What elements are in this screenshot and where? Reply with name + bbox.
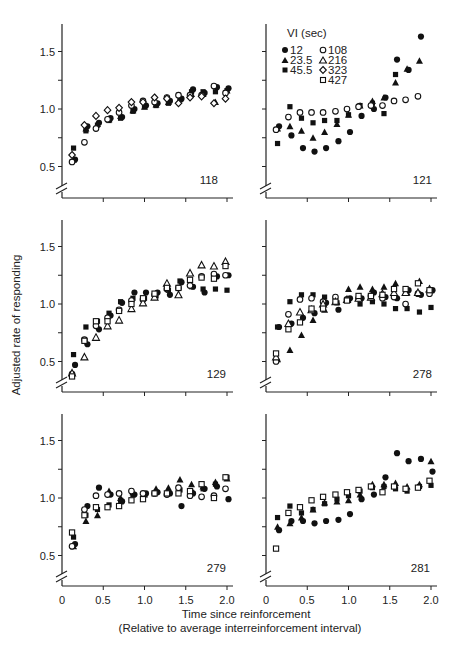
open-diamond-marker (93, 112, 100, 119)
filled-square-marker (310, 507, 315, 512)
filled-square-marker (381, 301, 386, 306)
filled-square-marker (322, 118, 327, 123)
open-square-marker (164, 285, 169, 290)
open-circle-marker (368, 103, 374, 109)
open-square-marker (116, 308, 121, 313)
filled-circle-marker (335, 517, 341, 523)
open-square-marker (344, 298, 349, 303)
filled-triangle-marker (286, 347, 293, 354)
open-circle-marker (211, 83, 217, 89)
filled-circle-marker (382, 474, 388, 480)
filled-triangle-icon (282, 57, 289, 63)
filled-square-marker (71, 352, 76, 357)
open-circle-marker (105, 117, 111, 123)
filled-triangle-marker (298, 127, 305, 134)
filled-circle-icon (282, 47, 288, 53)
open-circle-marker (309, 295, 315, 301)
filled-triangle-marker (310, 317, 317, 324)
x-axis-title: Time since reinforcement (182, 608, 311, 620)
open-circle-marker (380, 103, 386, 109)
filled-triangle-marker (416, 57, 423, 64)
open-circle-marker (93, 126, 99, 132)
open-square-marker (427, 288, 432, 293)
filled-square-marker (275, 515, 280, 520)
x-tick-label: 1.0 (137, 594, 152, 606)
filled-triangle-marker (428, 458, 435, 465)
filled-circle-marker (311, 148, 317, 154)
open-square-marker (129, 301, 134, 306)
filled-circle-marker (358, 113, 364, 119)
filled-triangle-marker (357, 283, 364, 290)
filled-triangle-marker (298, 332, 305, 339)
open-triangle-marker (187, 269, 194, 276)
filled-square-marker (393, 72, 398, 77)
open-square-marker (333, 299, 338, 304)
filled-square-marker (118, 116, 123, 121)
open-square-marker (391, 484, 396, 489)
open-square-marker (415, 485, 420, 490)
panel-id-281: 281 (411, 562, 430, 574)
x-tick-label: 2.0 (219, 594, 234, 606)
open-square-marker (93, 505, 98, 510)
open-square-marker (116, 503, 121, 508)
y-tick-label: 1.5 (40, 241, 55, 253)
y-tick-label: 0.5 (40, 550, 55, 562)
open-circle-marker (297, 297, 303, 303)
filled-triangle-marker (274, 523, 281, 530)
x-tick-label: 0 (263, 594, 269, 606)
legend-item-45-5: 45.5 (283, 64, 313, 76)
filled-triangle-marker (321, 129, 328, 136)
x-tick-labels-left: 0 0.5 1.0 1.5 2.0 (59, 594, 235, 606)
panel-279: 0.51.01.5 (40, 414, 233, 590)
filled-circle-marker (323, 518, 329, 524)
filled-triangle-marker (310, 134, 317, 141)
open-circle-marker (333, 109, 339, 115)
open-circle-marker (286, 114, 292, 120)
panel-id-279: 279 (207, 562, 226, 574)
open-circle-marker (223, 272, 229, 278)
open-circle-marker (391, 98, 397, 104)
open-circle-marker (199, 494, 205, 500)
filled-circle-marker (311, 520, 317, 526)
open-circle-marker (176, 485, 182, 491)
open-square-marker (211, 495, 216, 500)
panel-id-278: 278 (413, 368, 432, 380)
filled-circle-marker (96, 485, 102, 491)
open-circle-marker (116, 491, 122, 497)
open-square-marker (129, 498, 134, 503)
panels: 0.51.01.50.51.01.50.51.01.5 (40, 24, 437, 590)
filled-square-marker (213, 286, 218, 291)
open-circle-marker (273, 127, 279, 133)
filled-triangle-marker (392, 79, 399, 86)
open-square-marker (105, 505, 110, 510)
open-square-marker (140, 296, 145, 301)
legend: VI (sec) 12 23.5 45.5 108 216 323 427 (282, 27, 348, 86)
open-diamond-icon (320, 67, 327, 74)
x-axis-subtitle: (Relative to average interreinforcement … (119, 622, 362, 634)
open-square-marker (187, 277, 192, 282)
open-triangle-marker (175, 291, 182, 298)
scatter-figure: Adjusted rate of responding 0.51.01.50.5… (0, 0, 461, 645)
open-square-marker (273, 351, 278, 356)
open-circle-marker (309, 110, 315, 116)
y-tick-label: 1.0 (40, 298, 55, 310)
filled-triangle-marker (94, 512, 101, 519)
filled-circle-marker (394, 450, 400, 456)
open-circle-marker (356, 104, 362, 110)
filled-triangle-marker (369, 286, 376, 293)
filled-square-marker (357, 301, 362, 306)
filled-circle-marker (143, 289, 149, 295)
legend-label: 427 (328, 74, 347, 86)
open-circle-marker (82, 140, 88, 146)
open-square-marker (164, 491, 169, 496)
open-circle-marker (415, 94, 421, 100)
filled-circle-marker (300, 145, 306, 151)
open-circle-icon (320, 47, 326, 53)
open-circle-marker (105, 492, 111, 498)
filled-circle-marker (394, 56, 400, 62)
x-tick-label: 0 (59, 594, 65, 606)
y-tick-label: 1.0 (40, 492, 55, 504)
filled-square-marker (118, 498, 123, 503)
panel-id-121: 121 (413, 174, 432, 186)
open-circle-marker (69, 159, 75, 165)
